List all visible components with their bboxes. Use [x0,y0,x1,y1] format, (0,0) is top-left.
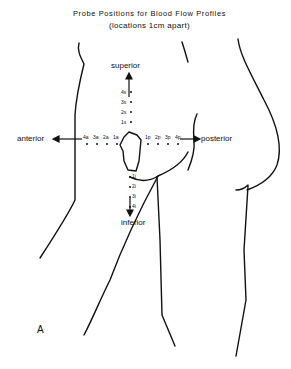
superior-label: superior [111,61,140,70]
probe-point-1i: 1i [132,174,136,179]
probe-dot [130,101,132,103]
probe-point-1a: 1a [113,135,119,140]
probe-dot [177,143,179,145]
probe-point-2i: 2i [132,184,136,189]
probe-point-2p: 2p [155,135,161,140]
probe-point-4a: 4a [83,135,89,140]
probe-dot [106,143,108,145]
probe-dot [130,121,132,123]
probe-dot [129,176,131,178]
probe-point-4i: 4i [132,204,136,209]
posterior-label: posterior [201,134,232,143]
probe-point-1p: 1p [145,135,151,140]
probe-point-3i: 3i [132,194,136,199]
probe-dot [130,91,132,93]
probe-point-3a: 3a [93,135,99,140]
probe-dot [96,143,98,145]
probe-point-3p: 3p [165,135,171,140]
probe-point-3s: 3s [121,100,126,105]
body-outline [0,0,291,369]
probe-point-1s: 1s [121,120,126,125]
probe-point-4p: 4p [175,135,181,140]
probe-dot [167,143,169,145]
probe-dot [116,143,118,145]
probe-dot [147,143,149,145]
inferior-label: inferior [121,218,145,227]
probe-point-4s: 4s [121,90,126,95]
probe-point-2s: 2s [121,110,126,115]
probe-dot [86,143,88,145]
probe-dot [130,111,132,113]
probe-dot [129,206,131,208]
probe-dot [129,186,131,188]
probe-dot [129,196,131,198]
figure-label: A [37,324,44,335]
anterior-label: anterior [17,134,44,143]
probe-dot [157,143,159,145]
probe-point-2a: 2a [103,135,109,140]
